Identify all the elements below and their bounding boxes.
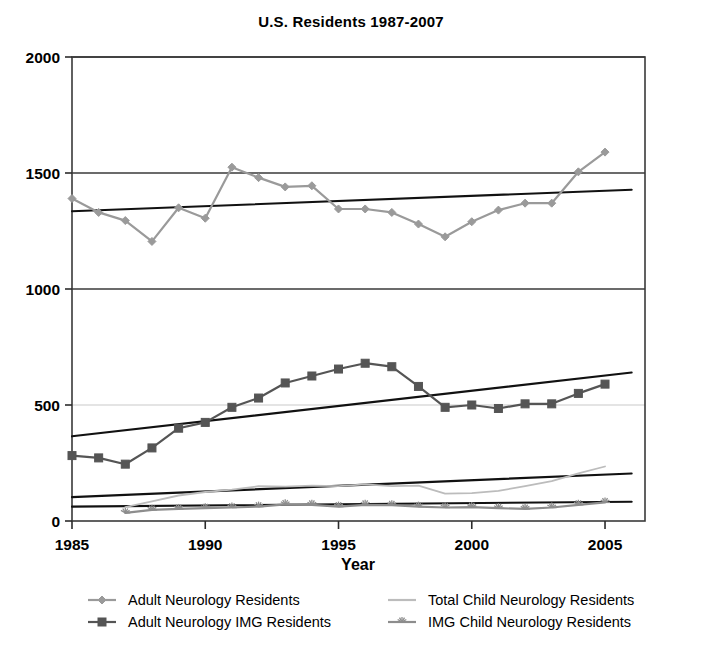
data-point xyxy=(548,400,556,408)
legend-item[interactable]: Total Child Neurology Residents xyxy=(388,592,634,608)
y-tick-label: 500 xyxy=(34,397,60,414)
data-point xyxy=(574,389,582,397)
chart-figure: U.S. Residents 1987-2007 200015001000500… xyxy=(0,0,703,648)
data-point xyxy=(361,359,369,367)
chart-canvas: U.S. Residents 1987-2007 200015001000500… xyxy=(0,0,703,648)
x-axis-title: Year xyxy=(341,556,375,573)
data-point xyxy=(361,205,369,213)
chart-title: U.S. Residents 1987-2007 xyxy=(258,13,444,30)
data-point xyxy=(201,214,209,222)
x-tick-label: 2000 xyxy=(455,536,489,553)
legend-label: IMG Child Neurology Residents xyxy=(428,614,631,630)
data-point xyxy=(98,618,106,626)
data-point xyxy=(521,199,529,207)
data-point xyxy=(521,400,529,408)
legend-item[interactable]: Adult Neurology IMG Residents xyxy=(88,614,331,630)
data-point xyxy=(255,394,263,402)
legend-label: Adult Neurology IMG Residents xyxy=(128,614,331,630)
x-axis-tick-labels: 19851990199520002005 xyxy=(55,536,623,553)
data-point xyxy=(494,206,502,214)
data-point xyxy=(414,382,422,390)
legend-label: Adult Neurology Residents xyxy=(128,592,300,608)
series-0 xyxy=(68,148,609,245)
data-point xyxy=(388,208,396,216)
y-tick-label: 1500 xyxy=(26,165,60,182)
y-tick-label: 0 xyxy=(51,513,60,530)
data-point xyxy=(228,163,236,171)
data-point xyxy=(148,444,156,452)
data-point xyxy=(441,403,449,411)
data-series xyxy=(68,148,610,513)
data-point xyxy=(95,454,103,462)
chart-legend: Adult Neurology ResidentsTotal Child Neu… xyxy=(88,592,634,630)
x-tick-label: 1985 xyxy=(55,536,90,553)
data-point xyxy=(175,424,183,432)
series-line xyxy=(72,152,605,241)
data-point xyxy=(468,401,476,409)
data-point xyxy=(388,363,396,371)
data-point xyxy=(601,380,609,388)
data-point xyxy=(121,460,129,468)
data-point xyxy=(414,220,422,228)
data-point xyxy=(201,418,209,426)
data-point xyxy=(494,404,502,412)
y-tick-label: 1000 xyxy=(26,281,60,298)
data-point xyxy=(68,195,76,203)
data-point xyxy=(98,596,106,604)
y-axis-tick-labels: 2000150010005000 xyxy=(26,49,60,530)
gridlines xyxy=(72,57,645,405)
legend-item[interactable]: Adult Neurology Residents xyxy=(88,592,300,608)
data-point xyxy=(255,174,263,182)
data-point xyxy=(228,403,236,411)
data-point xyxy=(335,365,343,373)
data-point xyxy=(281,183,289,191)
legend-label: Total Child Neurology Residents xyxy=(428,592,634,608)
legend-item[interactable]: IMG Child Neurology Residents xyxy=(388,614,631,630)
axis-ticks xyxy=(65,57,605,529)
x-tick-label: 2005 xyxy=(588,536,623,553)
x-tick-label: 1990 xyxy=(188,536,222,553)
x-tick-label: 1995 xyxy=(321,536,356,553)
data-point xyxy=(281,379,289,387)
y-tick-label: 2000 xyxy=(26,49,60,66)
data-point xyxy=(308,372,316,380)
series-1 xyxy=(68,359,609,468)
data-point xyxy=(68,452,76,460)
